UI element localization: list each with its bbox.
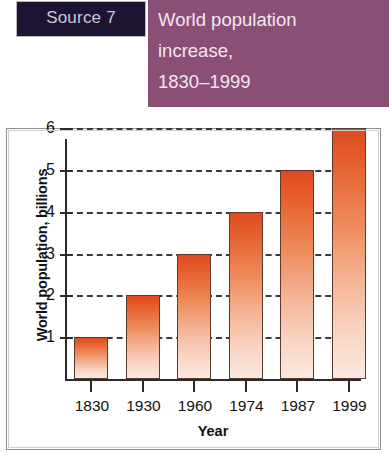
figure-title-line-2: increase,	[158, 35, 385, 66]
bar-chart: World population, billions 123456 183019…	[6, 128, 381, 450]
x-tick-1960	[193, 381, 195, 392]
x-tick-1999	[348, 381, 350, 392]
y-tick-label-6: 6	[31, 120, 55, 136]
x-tick-1830	[90, 381, 92, 392]
gridline-4	[67, 212, 361, 214]
gridline-3	[67, 254, 361, 256]
y-tick-label-2: 2	[31, 287, 55, 303]
bar-1930	[126, 295, 160, 379]
figure-title-line-1: World population	[158, 4, 385, 35]
x-tick-1930	[142, 381, 144, 392]
gridline-2	[67, 295, 361, 297]
bar-1999	[332, 128, 366, 379]
bar-1987	[280, 170, 314, 379]
gridline-6	[67, 128, 361, 130]
bar-1974	[229, 212, 263, 379]
figure-title: World population increase, 1830–1999	[158, 4, 385, 97]
x-axis-line	[65, 379, 361, 381]
y-tick-3	[60, 254, 72, 256]
y-tick-label-3: 3	[31, 246, 55, 262]
gridline-5	[67, 170, 361, 172]
y-tick-1	[60, 337, 72, 339]
plot-area: 123456 183019301960197419871999 Year	[65, 139, 368, 379]
y-axis-line	[65, 139, 67, 381]
figure-title-line-3: 1830–1999	[158, 66, 385, 97]
source-badge: Source 7	[17, 2, 145, 36]
x-tick-1987	[296, 381, 298, 392]
bar-1960	[177, 254, 211, 379]
y-tick-label-5: 5	[31, 162, 55, 178]
y-tick-label-1: 1	[31, 329, 55, 345]
y-tick-2	[60, 295, 72, 297]
bar-1830	[74, 337, 108, 379]
y-tick-4	[60, 212, 72, 214]
x-tick-1974	[245, 381, 247, 392]
source-badge-label: Source 7	[17, 8, 145, 28]
gridline-1	[67, 337, 361, 339]
source-figure-page: Source 7 World population increase, 1830…	[0, 0, 389, 461]
y-tick-5	[60, 170, 72, 172]
figure-title-panel: World population increase, 1830–1999	[148, 0, 389, 107]
x-axis-title: Year	[65, 423, 361, 439]
x-tick-label-1999: 1999	[320, 397, 380, 415]
y-tick-6	[60, 128, 72, 130]
y-tick-label-4: 4	[31, 204, 55, 220]
